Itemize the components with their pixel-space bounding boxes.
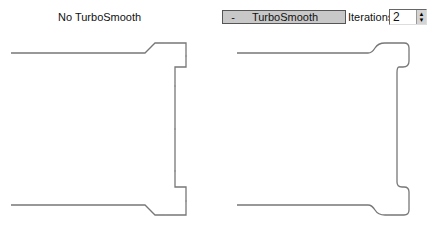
vertex-markers bbox=[11, 42, 187, 216]
profile-smoothed bbox=[237, 43, 409, 215]
profile-unsmoothed bbox=[12, 43, 186, 215]
viewport-shapes bbox=[0, 0, 441, 230]
